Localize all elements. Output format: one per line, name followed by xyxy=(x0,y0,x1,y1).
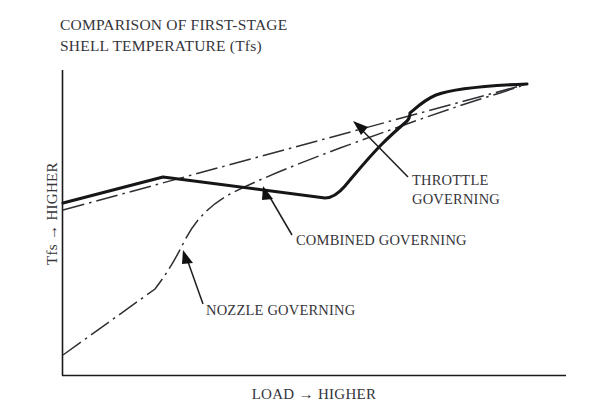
annotation-nozzle-governing: NOZZLE GOVERNING xyxy=(206,301,355,320)
annotation-combined-governing: COMBINED GOVERNING xyxy=(296,231,467,250)
leader-nozzle-governing xyxy=(182,250,203,304)
annotation-throttle-governing: THROTTLE GOVERNING xyxy=(412,171,500,209)
chart-page: COMPARISON OF FIRST-STAGE SHELL TEMPERAT… xyxy=(0,0,594,410)
plot-area xyxy=(0,0,594,410)
